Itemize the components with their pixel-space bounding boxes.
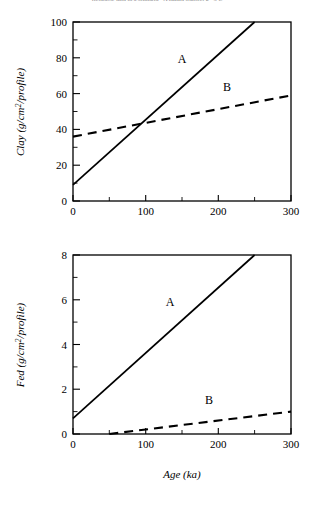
x-tick-label-clay-0: 0 [70, 205, 76, 217]
y-axis-title-fed: Fed (g/cm2/profile) [14, 302, 27, 388]
series-label-a-fed: A [166, 295, 175, 309]
svg-text:Fed (g/cm2/profile): Fed (g/cm2/profile) [14, 302, 27, 388]
series-line-a-clay [73, 22, 255, 185]
y-tick-label-fed-4: 4 [62, 339, 68, 351]
x-tick-label-fed-200: 200 [210, 438, 227, 450]
y-axis-minor-ticks-clay [73, 40, 78, 183]
svg-text:Clay (g/cm2/profile): Clay (g/cm2/profile) [14, 68, 27, 157]
y-tick-label-fed-6: 6 [62, 294, 68, 306]
series-line-a-fed [73, 255, 255, 418]
series-label-b-fed: B [205, 393, 213, 407]
x-tick-label-fed-100: 100 [137, 438, 154, 450]
y-tick-label-clay-0: 0 [62, 195, 68, 207]
plot-frame-clay [73, 22, 291, 201]
two-panel-line-figure: 0 20 40 60 80 100 0 100 200 300 Clay (g/… [0, 0, 314, 506]
x-tick-label-fed-0: 0 [70, 438, 76, 450]
series-line-b-fed [109, 412, 291, 434]
y-axis-title-fed-main: Fed (g/cm [14, 342, 27, 388]
y-tick-label-fed-8: 8 [62, 249, 68, 261]
chart-panel-clay: 0 20 40 60 80 100 0 100 200 300 Clay (g/… [14, 16, 300, 217]
y-tick-label-clay-20: 20 [56, 159, 68, 171]
y-axis-title-clay-tail: /profile) [14, 68, 27, 105]
chart-panel-fed: 0 2 4 6 8 0 100 200 300 Fed (g/cm2/profi… [14, 249, 300, 481]
y-tick-label-fed-2: 2 [62, 383, 68, 395]
x-tick-label-clay-100: 100 [137, 205, 154, 217]
y-tick-label-clay-40: 40 [56, 123, 68, 135]
series-label-a-clay: A [178, 52, 187, 66]
plot-frame-fed [73, 255, 291, 434]
x-tick-label-fed-300: 300 [283, 438, 300, 450]
series-label-b-clay: B [223, 80, 231, 94]
x-tick-label-clay-200: 200 [210, 205, 227, 217]
y-tick-label-clay-60: 60 [56, 88, 68, 100]
y-tick-label-clay-100: 100 [51, 16, 68, 28]
series-line-b-clay [73, 95, 291, 136]
x-tick-label-clay-300: 300 [283, 205, 300, 217]
y-axis-major-ticks-fed [73, 255, 80, 434]
y-tick-label-fed-0: 0 [62, 428, 68, 440]
x-axis-title: Age (ka) [162, 468, 201, 481]
y-axis-title-fed-tail: /profile) [14, 302, 27, 339]
y-axis-title-clay: Clay (g/cm2/profile) [14, 68, 27, 157]
y-tick-label-clay-80: 80 [56, 52, 68, 64]
y-axis-title-clay-main: Clay (g/cm [14, 107, 27, 156]
